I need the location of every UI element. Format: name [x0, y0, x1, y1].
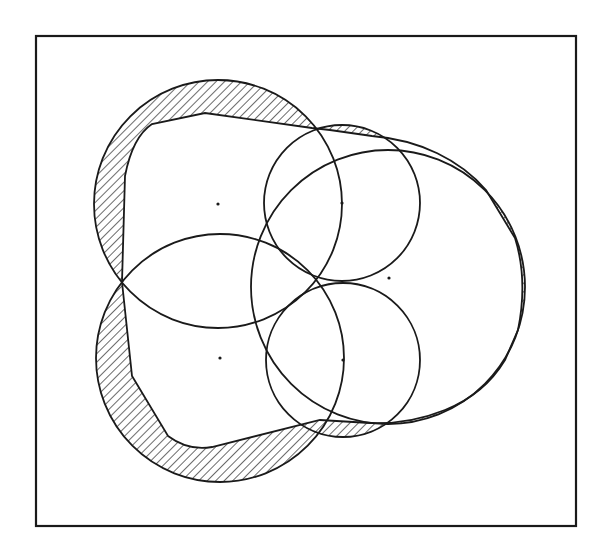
center-upper-right [340, 201, 343, 204]
center-lower-left [218, 356, 221, 359]
center-lower-right [341, 358, 344, 361]
hatched-error-region [0, 0, 611, 555]
center-upper-left [216, 202, 219, 205]
diagram-svg [0, 0, 611, 555]
center-right [387, 276, 390, 279]
figure-canvas [0, 0, 611, 555]
